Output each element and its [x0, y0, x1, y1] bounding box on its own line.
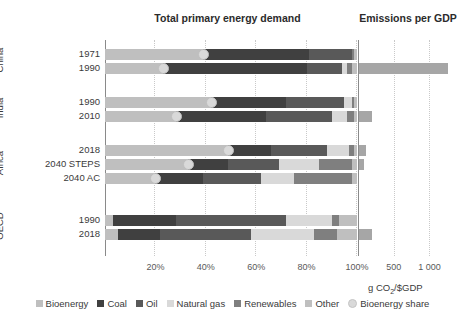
row-label: 1971: [28, 48, 100, 59]
row-label: 2040 STEPS: [28, 158, 100, 169]
chart-legend: BioenergyCoalOilNatural gasRenewablesOth…: [0, 298, 465, 309]
bar-segment-natural-gas: [286, 215, 331, 226]
x-tick-label: 20%: [132, 262, 178, 272]
row-label: 2010: [28, 110, 100, 121]
bar-segment-other: [337, 229, 357, 240]
row-label: 2018: [28, 144, 100, 155]
legend-item[interactable]: Coal: [97, 298, 127, 309]
bar-segment-renewables: [294, 173, 352, 184]
bioenergy-share-marker: [206, 97, 217, 108]
legend-label: Bioenergy: [46, 298, 89, 309]
bar-segment-oil: [228, 159, 278, 170]
row-label: 1990: [28, 214, 100, 225]
legend-item[interactable]: Natural gas: [167, 298, 226, 309]
bar-segment-bioenergy: [105, 111, 176, 122]
row-label: 1990: [28, 62, 100, 73]
bar-segment-natural-gas: [261, 173, 294, 184]
bar-segment-other: [339, 215, 357, 226]
legend-label: Coal: [107, 298, 127, 309]
bar-segment-oil: [271, 145, 326, 156]
legend-swatch-oil: [136, 300, 143, 307]
bar-segment-bioenergy: [105, 145, 228, 156]
stacked-bar-row[interactable]: [105, 229, 357, 240]
emissions-bar[interactable]: [359, 229, 372, 240]
bar-segment-oil: [309, 49, 352, 60]
stacked-bar-row[interactable]: [105, 173, 357, 184]
bar-segment-coal: [113, 215, 176, 226]
bioenergy-share-marker: [171, 111, 182, 122]
bar-segment-bioenergy: [105, 49, 203, 60]
right-panel-title: Emissions per GDP: [352, 12, 464, 24]
emissions-bar[interactable]: [359, 145, 366, 156]
legend-label: Renewables: [244, 298, 296, 309]
stacked-bar-row[interactable]: [105, 159, 357, 170]
legend-swatch-bioenergy: [36, 300, 43, 307]
bar-segment-natural-gas: [251, 229, 314, 240]
bar-segment-bioenergy: [105, 97, 211, 108]
bar-segment-oil: [266, 111, 332, 122]
legend-item[interactable]: Oil: [136, 298, 158, 309]
emissions-bar[interactable]: [359, 159, 364, 170]
bar-segment-bioenergy: [105, 173, 155, 184]
group-label-china: China: [0, 40, 5, 80]
bar-segment-oil: [160, 229, 251, 240]
bar-segment-bioenergy: [105, 229, 118, 240]
bar-segment-renewables: [319, 159, 352, 170]
x-tick-label: 80%: [284, 262, 330, 272]
legend-item[interactable]: Bioenergy: [36, 298, 89, 309]
bar-segment-coal: [118, 229, 161, 240]
bar-segment-bioenergy: [105, 159, 188, 170]
stacked-bar-row[interactable]: [105, 215, 357, 226]
bar-segment-coal: [203, 49, 309, 60]
bar-segment-coal: [155, 173, 203, 184]
bar-segment-other: [354, 111, 357, 122]
bar-segment-renewables: [332, 215, 340, 226]
bar-segment-renewables: [347, 111, 355, 122]
bar-segment-coal: [188, 159, 228, 170]
bar-segment-bioenergy: [105, 63, 163, 74]
x-tick-label: 60%: [233, 262, 279, 272]
legend-label: Bioenergy share: [360, 298, 429, 309]
row-label: 2040 AC: [28, 172, 100, 183]
bar-segment-oil: [176, 215, 287, 226]
stacked-bar-row[interactable]: [105, 63, 357, 74]
bar-segment-other: [352, 159, 357, 170]
bar-segment-renewables: [314, 229, 337, 240]
legend-item[interactable]: Renewables: [234, 298, 296, 309]
bioenergy-share-marker: [158, 63, 169, 74]
bar-segment-natural-gas: [327, 145, 350, 156]
emissions-bar[interactable]: [359, 63, 448, 74]
legend-swatch-other: [305, 300, 312, 307]
bar-segment-coal: [211, 97, 287, 108]
legend-item[interactable]: Bioenergy share: [348, 298, 429, 309]
bar-segment-oil: [307, 63, 342, 74]
stacked-bar-row[interactable]: [105, 49, 357, 60]
x-tick-label: 40%: [183, 262, 229, 272]
row-label: 2018: [28, 228, 100, 239]
left-panel-title: Total primary energy demand: [100, 12, 355, 24]
group-label-africa: Africa: [0, 143, 5, 183]
legend-swatch-natural-gas: [167, 300, 174, 307]
legend-label: Other: [315, 298, 339, 309]
group-label-india: India: [0, 88, 5, 128]
group-label-oecd: OECD: [0, 206, 5, 246]
bar-segment-other: [354, 145, 357, 156]
bar-segment-coal: [163, 63, 307, 74]
bar-segment-bioenergy: [105, 215, 113, 226]
bar-segment-coal: [228, 145, 271, 156]
bar-segment-natural-gas: [332, 111, 347, 122]
bar-segment-other: [352, 63, 357, 74]
legend-item[interactable]: Other: [305, 298, 339, 309]
bar-segment-other: [354, 49, 357, 60]
legend-label: Natural gas: [177, 298, 226, 309]
stacked-bar-row[interactable]: [105, 97, 357, 108]
legend-swatch-renewables: [234, 300, 241, 307]
bar-segment-coal: [176, 111, 267, 122]
emissions-bar[interactable]: [359, 111, 372, 122]
stacked-bar-row[interactable]: [105, 111, 357, 122]
x-tick-label-emissions: 1 000: [406, 262, 452, 272]
legend-swatch-bioenergy-share: [348, 299, 357, 308]
right-axis-unit: g CO2/$GDP: [368, 282, 423, 295]
bar-segment-other: [354, 97, 357, 108]
bar-segment-oil: [203, 173, 261, 184]
